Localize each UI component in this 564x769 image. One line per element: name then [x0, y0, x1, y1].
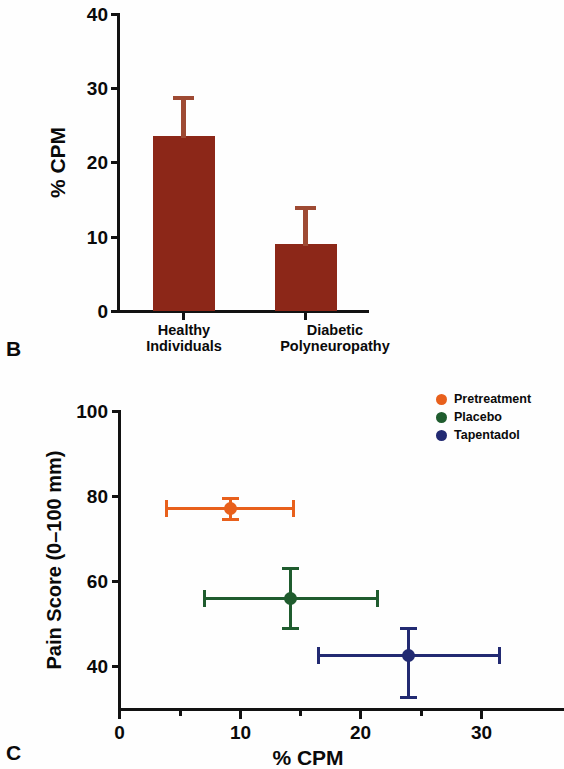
panel-c-tapentadol-yerror-cap-low [400, 696, 417, 699]
panel-c-tapentadol-yerror-bar [407, 627, 410, 699]
panel-b-xtick-diabetic [304, 313, 307, 320]
panel-c-pretreatment-xerror-cap-low [165, 500, 168, 517]
panel-b-errorcap-healthy [173, 96, 194, 100]
panel-c-placebo-xerror-cap-low [203, 590, 206, 607]
panel-c-pretreatment-xerror-cap-high [292, 500, 295, 517]
panel-b-category-diabetic-line1: Diabetic [240, 322, 430, 338]
panel-c-xtick-0 [118, 711, 121, 719]
panel-c-xtick-5-minor [179, 711, 182, 716]
panel-b-y-axis-title: % CPM [47, 103, 68, 223]
panel-b-xtick-healthy [182, 313, 185, 320]
panel-b-category-label-diabetic: Diabetic Polyneuropathy [240, 322, 430, 354]
panel-c-yticklabel-80: 80 [60, 487, 108, 506]
panel-c-ytick-60 [112, 580, 119, 583]
panel-c-ytick-80 [112, 495, 119, 498]
legend-item-placebo[interactable]: Placebo [436, 411, 502, 424]
panel-b-errorcap-diabetic [295, 206, 316, 210]
panel-c-tapentadol-yerror-cap-high [400, 627, 417, 630]
panel-c-point-pretreatment[interactable] [224, 502, 237, 515]
panel-c-xtick-10 [239, 711, 242, 719]
panel-c-tapentadol-xerror-cap-high [498, 647, 501, 664]
panel-b-bar-diabetic [275, 244, 337, 311]
panel-b-ytick-20 [111, 161, 118, 164]
panel-c-xtick-20 [359, 711, 362, 719]
panel-c-pretreatment-yerror-cap-high [222, 497, 239, 500]
panel-c-yticklabel-100: 100 [60, 402, 108, 421]
panel-c: 100 80 60 40 Pain Score (0–100 mm) 0 10 … [0, 385, 564, 769]
panel-c-pretreatment-yerror-cap-low [222, 518, 239, 521]
panel-c-letter: C [6, 742, 21, 763]
panel-b-category-healthy-line1: Healthy [124, 322, 244, 338]
panel-b-category-label-healthy: Healthy Individuals [124, 322, 244, 354]
legend-label-pretreatment: Pretreatment [454, 393, 531, 406]
panel-b-ytick-40 [111, 13, 118, 16]
panel-c-ytick-40 [112, 665, 119, 668]
legend-marker-placebo-icon [436, 412, 447, 423]
panel-c-yticklabel-40: 40 [60, 657, 108, 676]
panel-b-yticklabel-20: 20 [80, 153, 108, 172]
panel-b-bar-healthy [153, 136, 215, 311]
panel-b-category-diabetic-line2: Polyneuropathy [240, 338, 430, 354]
panel-b-yticklabel-10: 10 [80, 228, 108, 247]
panel-c-ytick-100 [112, 410, 119, 413]
panel-c-point-tapentadol[interactable] [402, 649, 415, 662]
panel-b-yticklabel-30: 30 [80, 79, 108, 98]
legend-item-pretreatment[interactable]: Pretreatment [436, 393, 531, 406]
panel-b: 0 10 20 30 40 % CPM Healthy Individuals … [0, 0, 564, 380]
panel-c-x-axis-title: % CPM [228, 747, 388, 768]
legend-item-tapentadol[interactable]: Tapentadol [436, 429, 520, 442]
panel-c-tapentadol-xerror-cap-low [317, 647, 320, 664]
legend-label-placebo: Placebo [454, 411, 502, 424]
panel-b-errorbar-diabetic [303, 206, 308, 246]
legend-label-tapentadol: Tapentadol [454, 429, 520, 442]
panel-b-ytick-30 [111, 87, 118, 90]
panel-b-letter: B [6, 338, 21, 359]
panel-c-x-axis [118, 708, 564, 711]
panel-c-yticklabel-60: 60 [60, 572, 108, 591]
panel-b-ytick-0 [111, 310, 118, 313]
panel-b-yticklabel-0: 0 [94, 302, 108, 321]
panel-c-y-axis-title: Pain Score (0–100 mm) [44, 410, 64, 710]
panel-c-placebo-yerror-cap-low [282, 627, 299, 630]
panel-c-xticklabel-0: 0 [104, 723, 135, 742]
panel-b-yticklabel-40: 40 [80, 5, 108, 24]
figure-container: 0 10 20 30 40 % CPM Healthy Individuals … [0, 0, 564, 769]
panel-c-xtick-15-minor [299, 711, 302, 716]
panel-c-legend: Pretreatment Placebo Tapentadol [436, 391, 564, 447]
panel-c-xtick-30 [480, 711, 483, 719]
panel-c-xticklabel-20: 20 [341, 723, 380, 742]
legend-marker-pretreatment-icon [436, 394, 447, 405]
panel-c-point-placebo[interactable] [284, 592, 297, 605]
panel-c-xticklabel-30: 30 [462, 723, 501, 742]
panel-b-category-healthy-line2: Individuals [124, 338, 244, 354]
panel-b-ytick-10 [111, 236, 118, 239]
panel-c-placebo-yerror-cap-high [282, 567, 299, 570]
legend-marker-tapentadol-icon [436, 430, 447, 441]
panel-c-xtick-25-minor [420, 711, 423, 716]
panel-c-placebo-xerror-cap-high [376, 590, 379, 607]
panel-c-xticklabel-10: 10 [221, 723, 260, 742]
panel-b-errorbar-healthy [181, 96, 186, 138]
